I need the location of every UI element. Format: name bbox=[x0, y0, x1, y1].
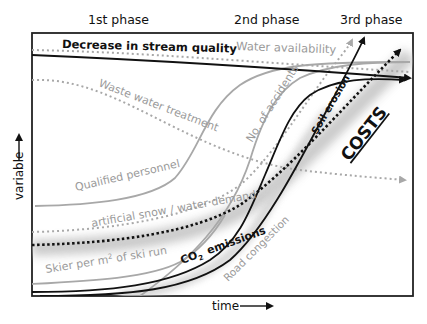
water-availability-label: Water availability bbox=[236, 39, 337, 56]
phase-2-label: 2nd phase bbox=[234, 12, 300, 27]
accidents-label: No. of accidents bbox=[244, 62, 302, 144]
waste-water-curve bbox=[32, 80, 405, 180]
phase-1-label: 1st phase bbox=[88, 12, 149, 27]
y-axis-label: variable bbox=[12, 135, 26, 200]
x-axis-text: time bbox=[212, 299, 239, 313]
qualified-personnel-label: Qualified personnel bbox=[74, 157, 181, 194]
phase-3-label: 3rd phase bbox=[340, 12, 403, 27]
waste-water-label: Waste water treatment bbox=[97, 77, 221, 135]
stream-quality-label: Decrease in stream quality bbox=[62, 37, 238, 56]
phase-diagram: 1st phase 2nd phase 3rd phase Decrease i… bbox=[0, 0, 427, 324]
x-axis-label: time bbox=[212, 299, 272, 313]
